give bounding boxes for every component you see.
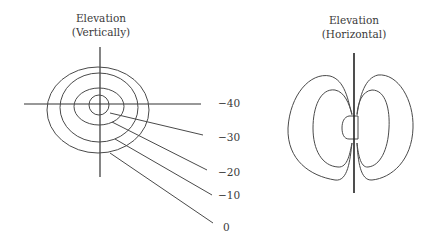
- label-minus-30: −30: [218, 131, 240, 143]
- left-title-line2: (Vertically): [72, 26, 130, 38]
- contour-0: [47, 67, 149, 153]
- label-minus-40: −40: [218, 97, 240, 109]
- label-minus-20: −20: [218, 166, 240, 178]
- horizontal-elevation-diagram: Elevation (Horizontal): [288, 14, 413, 193]
- leader-line-minus-30: [110, 113, 203, 135]
- inner-contour: [342, 116, 358, 139]
- contour-minus-30: [89, 95, 109, 115]
- elevation-diagrams: Elevation (Vertically) −40 −30 −20 −10 0…: [0, 0, 433, 246]
- vertical-elevation-diagram: Elevation (Vertically) −40 −30 −20 −10 0: [24, 12, 240, 233]
- label-0: 0: [223, 221, 230, 233]
- leader-line-minus-10: [115, 139, 212, 195]
- outer-right-lobe: [357, 75, 413, 180]
- right-title-line2: (Horizontal): [322, 28, 387, 40]
- leader-line-0: [110, 153, 213, 223]
- label-minus-10: −10: [218, 189, 240, 201]
- middle-right-lobe: [357, 90, 389, 167]
- right-title-line1: Elevation: [329, 14, 379, 26]
- middle-left-lobe: [313, 90, 352, 167]
- left-title-line1: Elevation: [76, 12, 126, 24]
- contour-minus-20: [74, 88, 124, 125]
- contour-minus-10: [60, 73, 138, 142]
